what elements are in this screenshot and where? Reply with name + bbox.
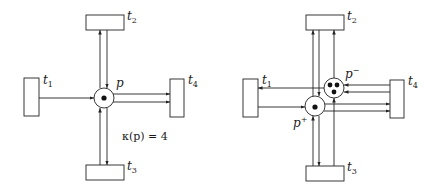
transition-t1 (24, 78, 39, 116)
transition-t2 (86, 15, 124, 30)
token (335, 83, 340, 88)
label-t3: t3 (347, 160, 357, 176)
capacity-label: κ(p) = 4 (122, 130, 168, 143)
transition-t3 (306, 166, 344, 181)
transition-t4 (390, 80, 404, 118)
label-p: p (116, 76, 124, 90)
token (101, 95, 106, 100)
petri-net-figure: t2 t1 t4 t3 p κ(p) = 4 t2 t1 t4 t3 (0, 0, 438, 196)
right-petri-net (243, 15, 404, 181)
transition-t3 (86, 165, 124, 180)
label-p-minus: p− (345, 66, 359, 81)
token (312, 104, 317, 109)
label-p-plus: p+ (293, 115, 307, 130)
label-t4: t4 (188, 73, 198, 89)
label-t2: t2 (347, 9, 357, 25)
label-t1: t1 (43, 73, 53, 89)
transition-t2 (306, 15, 344, 30)
label-t2: t2 (127, 9, 137, 25)
token (332, 90, 337, 95)
label-t4: t4 (408, 74, 418, 90)
label-t3: t3 (127, 159, 137, 175)
place-p-minus (324, 78, 344, 98)
transition-t1 (243, 79, 258, 117)
label-t1: t1 (262, 73, 272, 89)
transition-t4 (170, 79, 184, 117)
token (328, 83, 333, 88)
